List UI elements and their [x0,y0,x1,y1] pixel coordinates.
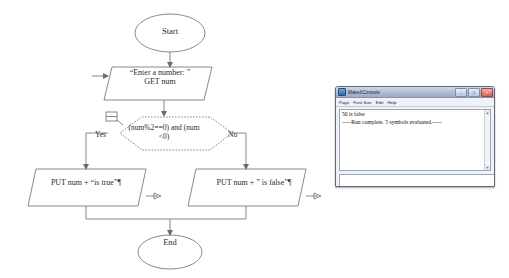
window-controls: – □ × [455,88,493,97]
menu-bar: Page Font Size Edit Help [336,98,494,107]
command-input[interactable] [339,174,495,187]
flowchart-shapes [0,0,340,278]
start-terminator-shape [135,14,205,52]
menu-item-font-size[interactable]: Font Size [353,100,372,105]
console-footer: Clear [339,174,491,187]
menu-item-help[interactable]: Help [387,100,396,105]
minimize-button[interactable]: – [455,88,467,97]
console-line: 50 is false [342,111,488,119]
input-shape [104,67,212,100]
menu-item-page[interactable]: Page [339,100,349,105]
maximize-button[interactable]: □ [468,88,480,97]
decision-shape [120,117,232,150]
close-button[interactable]: × [481,88,493,97]
app-icon [338,88,346,96]
console-line: -----Run complete. 5 symbols evaluated.-… [342,119,488,127]
window-title-bar[interactable]: MakeItConsole – □ × [336,87,494,98]
flowchart-diagram: Start “Enter a number: ” GET num (num%2=… [0,0,340,278]
output-true-shape [28,169,146,206]
screenshot-root: Start “Enter a number: ” GET num (num%2=… [0,0,509,278]
console-output-lines: 50 is false -----Run complete. 5 symbols… [340,110,490,127]
console-output-area[interactable]: 50 is false -----Run complete. 5 symbols… [339,109,491,171]
console-scrollbar[interactable]: ▲ ▼ [484,110,490,170]
menu-item-edit[interactable]: Edit [376,100,384,105]
window-title: MakeItConsole [348,90,380,95]
scroll-down-icon[interactable]: ▼ [485,165,490,170]
scroll-up-icon[interactable]: ▲ [485,110,490,115]
output-false-shape [188,169,306,206]
end-terminator-shape [138,235,202,269]
console-window: MakeItConsole – □ × Page Font Size Edit … [335,86,495,187]
